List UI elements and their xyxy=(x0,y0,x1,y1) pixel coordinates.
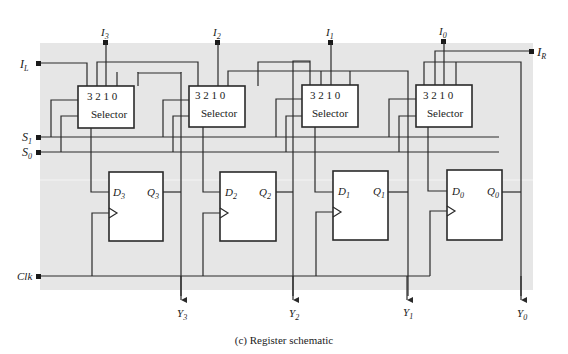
input-il: IL xyxy=(19,57,41,73)
svg-text:3 2 1 0: 3 2 1 0 xyxy=(87,90,118,102)
svg-text:Selector: Selector xyxy=(312,107,348,119)
svg-text:I2: I2 xyxy=(212,26,221,41)
input-s0: S0 xyxy=(22,145,41,161)
input-s1: S1 xyxy=(22,130,41,146)
svg-text:3 2 1 0: 3 2 1 0 xyxy=(195,89,226,101)
svg-text:3 2 1 0: 3 2 1 0 xyxy=(423,89,454,101)
svg-text:I0: I0 xyxy=(438,25,447,40)
svg-text:Selector: Selector xyxy=(427,107,463,119)
flipflop-2: D2 Q2 xyxy=(220,172,276,241)
svg-text:I1: I1 xyxy=(325,26,334,41)
svg-text:IL: IL xyxy=(19,57,29,73)
label-i1: I1 xyxy=(325,26,334,41)
selector-2: 3 2 1 0 Selector xyxy=(189,86,245,127)
svg-text:Selector: Selector xyxy=(91,108,127,120)
label-y2: Y2 xyxy=(289,307,299,322)
svg-text:Y1: Y1 xyxy=(403,306,413,321)
label-y1: Y1 xyxy=(403,306,413,321)
flipflop-0: D0 Q0 xyxy=(447,170,502,240)
svg-text:IR: IR xyxy=(536,44,546,61)
flipflop-1: D1 Q1 xyxy=(333,171,388,240)
flipflop-3: D3 Q3 xyxy=(109,172,163,241)
label-y3: Y3 xyxy=(177,307,187,322)
selector-1: 3 2 1 0 Selector xyxy=(302,85,358,127)
svg-text:S1: S1 xyxy=(22,130,32,146)
svg-text:Y3: Y3 xyxy=(177,307,187,322)
label-y0: Y0 xyxy=(517,307,527,322)
svg-text:Selector: Selector xyxy=(201,107,237,119)
svg-text:Y2: Y2 xyxy=(289,307,299,322)
selector-3: 3 2 1 0 Selector xyxy=(78,86,134,128)
label-i0: I0 xyxy=(438,25,447,40)
figure-caption: (c) Register schematic xyxy=(0,334,568,346)
svg-text:I3: I3 xyxy=(100,26,109,41)
label-i3: I3 xyxy=(100,26,109,41)
selector-0: 3 2 1 0 Selector xyxy=(416,85,472,127)
svg-text:S0: S0 xyxy=(22,145,32,161)
svg-text:Clk: Clk xyxy=(17,270,33,282)
schematic-background xyxy=(40,43,533,290)
svg-text:3 2 1 0: 3 2 1 0 xyxy=(310,89,341,101)
input-clk: Clk xyxy=(17,270,41,282)
register-schematic: 3 2 1 0 Selector 3 2 1 0 Selector 3 2 1 … xyxy=(0,0,568,354)
label-i2: I2 xyxy=(212,26,221,41)
svg-text:Y0: Y0 xyxy=(517,307,527,322)
